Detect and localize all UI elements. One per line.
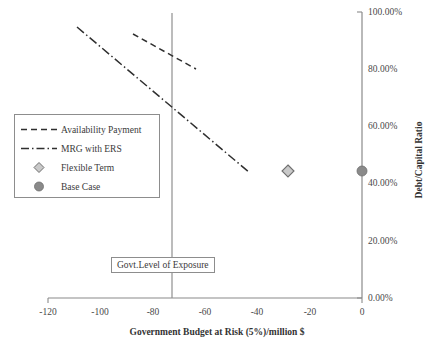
dashed-line-key: [15, 120, 61, 139]
legend-label: Flexible Term: [61, 163, 114, 173]
x-axis-title: Government Budget at Risk (5%)/million $: [130, 327, 305, 337]
x-tick-label: -100: [91, 307, 108, 317]
y-axis-ticks: [357, 12, 362, 298]
legend-label: MRG with ERS: [61, 144, 122, 154]
legend-item-availability-payment: Availability Payment: [15, 120, 159, 139]
legend-item-flexible-term: Flexible Term: [15, 158, 159, 177]
legend-item-mrg-with-ers: MRG with ERS: [15, 139, 159, 158]
legend-label: Availability Payment: [61, 125, 141, 135]
y-tick-label: 100.00%: [368, 7, 402, 17]
x-tick-label: -20: [304, 307, 317, 317]
circle-marker-key: [15, 177, 61, 196]
x-tick-label: -80: [147, 307, 160, 317]
chart-container: -120 -100 -80 -60 -40 -20 0 100.00% 80.0…: [0, 0, 434, 350]
x-tick-label: -120: [39, 307, 56, 317]
x-tick-label: 0: [360, 307, 365, 317]
legend-item-base-case: Base Case: [15, 177, 159, 196]
y-tick-label: 20.00%: [368, 236, 397, 246]
y-tick-label: 60.00%: [368, 121, 397, 131]
y-tick-label: 0.00%: [368, 293, 393, 303]
y-tick-label: 80.00%: [368, 64, 397, 74]
chart-legend: Availability Payment MRG with ERS Flexib…: [14, 114, 160, 198]
legend-label: Base Case: [61, 182, 100, 192]
y-tick-label: 40.00%: [368, 178, 397, 188]
govt-exposure-annotation-label: Govt.Level of Exposure: [111, 257, 215, 273]
dash-dot-line-key: [15, 139, 61, 158]
marker-flexible-term: [282, 165, 294, 177]
x-tick-label: -40: [251, 307, 264, 317]
series-line-availability-payment: [133, 34, 196, 69]
diamond-marker-key: [15, 158, 61, 177]
x-tick-label: -60: [199, 307, 212, 317]
marker-base-case: [357, 166, 367, 176]
x-axis-ticks: [48, 298, 362, 303]
y-axis-title: Debt/Capital Ratio: [414, 122, 424, 199]
